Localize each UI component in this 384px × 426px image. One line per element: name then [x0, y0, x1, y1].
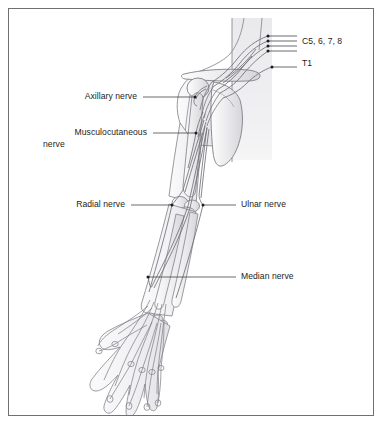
anatomy-illustration [0, 0, 384, 426]
label-musculocutaneous-nerve-line2: nerve [43, 139, 71, 151]
leader-dot-ulnar [202, 204, 205, 207]
label-nerve-roots: C5, 6, 7, 8 [302, 36, 342, 48]
leader-dot-median [147, 276, 150, 279]
leader-dot-radial [171, 204, 174, 207]
label-t1-root: T1 [302, 58, 312, 70]
label-ulnar-nerve: Ulnar nerve [241, 199, 286, 211]
leader-lines-nerve-roots [268, 36, 297, 67]
label-musculocutaneous-nerve: Musculocutaneous [43, 127, 147, 139]
label-median-nerve: Median nerve [241, 271, 294, 283]
label-axillary-nerve: Axillary nerve [63, 91, 137, 103]
leader-dot-axillary [194, 96, 197, 99]
label-radial-nerve: Radial nerve [61, 199, 125, 211]
anatomy-figure: C5, 6, 7, 8 T1 Axillary nerve Musculocut… [0, 0, 384, 426]
leader-dot-musculocutaneous [195, 132, 198, 135]
